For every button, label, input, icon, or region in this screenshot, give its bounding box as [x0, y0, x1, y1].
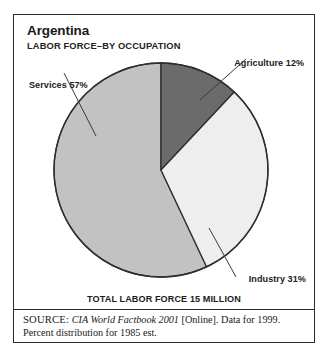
leader-line-industry: [209, 228, 236, 277]
page-title: Argentina: [27, 23, 185, 38]
total-labor-force-caption: TOTAL LABOR FORCE 15 MILLION: [19, 293, 310, 304]
pie-slice-services: [54, 63, 207, 277]
source-divider: [14, 309, 314, 310]
pie-label-agriculture: Agriculture 12%: [234, 57, 304, 68]
pie-label-industry: Industry 31%: [249, 273, 306, 284]
source-medium: [Online]. Data for 1999.: [181, 314, 280, 325]
source-prefix: SOURCE:: [23, 314, 69, 325]
chart-subtitle: LABOR FORCE–BY OCCUPATION: [27, 39, 181, 52]
pie-outline: [54, 63, 268, 277]
pie-slice-industry: [161, 92, 268, 267]
source-work-title: CIA World Factbook 2001: [72, 314, 179, 325]
source-note-line2: Percent distribution for 1985 est.: [23, 327, 157, 338]
pie-slice-agriculture: [161, 63, 234, 170]
source-note: SOURCE: CIA World Factbook 2001 [Online]…: [23, 314, 305, 339]
heading-block: Argentina LABOR FORCE–BY OCCUPATION: [27, 23, 185, 52]
figure-frame: Argentina LABOR FORCE–BY OCCUPATION Serv…: [13, 14, 315, 343]
pie-label-services: Services 57%: [29, 79, 88, 90]
